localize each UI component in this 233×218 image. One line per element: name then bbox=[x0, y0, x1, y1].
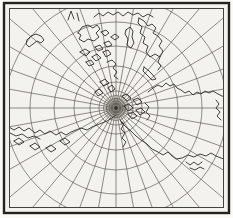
polar-map-figure bbox=[0, 0, 233, 218]
scanned-page bbox=[0, 0, 233, 218]
pole-dot bbox=[114, 106, 118, 110]
